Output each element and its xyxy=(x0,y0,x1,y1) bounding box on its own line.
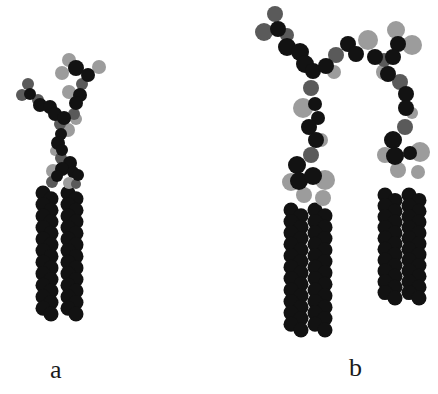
dark-atom xyxy=(72,169,84,181)
dark-atom xyxy=(24,88,36,100)
mid-atom xyxy=(267,6,283,22)
dark-atom xyxy=(403,146,417,160)
mid-atom xyxy=(397,119,413,135)
hydrocarbon-chain xyxy=(36,186,59,322)
dark-atom xyxy=(304,167,322,185)
dark-atom xyxy=(367,49,383,65)
dark-atom xyxy=(386,147,404,165)
hydrocarbon-chain xyxy=(402,188,427,306)
dark-atom xyxy=(288,156,306,174)
molecular-models-figure xyxy=(0,0,438,394)
mid-atom xyxy=(303,80,319,96)
dark-atom xyxy=(380,66,396,82)
light-atom xyxy=(411,165,425,179)
carbon-atom xyxy=(294,323,309,338)
dark-atom xyxy=(81,68,95,82)
light-atom xyxy=(315,190,331,206)
mid-atom xyxy=(255,23,273,41)
carbon-atom xyxy=(44,307,59,322)
dark-atom xyxy=(348,46,364,62)
panel-label-b: b xyxy=(349,355,362,381)
mid-atom xyxy=(22,78,34,90)
dark-atom xyxy=(384,131,402,149)
carbon-atom xyxy=(318,323,333,338)
molecule-model-b xyxy=(255,6,430,338)
dark-atom xyxy=(318,58,334,74)
dark-atom xyxy=(69,96,83,110)
hydrocarbon-chain xyxy=(378,188,403,306)
light-atom xyxy=(55,66,69,80)
carbon-atom xyxy=(412,291,427,306)
dark-atom xyxy=(308,132,324,148)
light-atom xyxy=(358,30,378,50)
molecule-model-a xyxy=(16,53,106,322)
panel-label-a: a xyxy=(50,357,62,383)
hydrocarbon-chain xyxy=(284,203,309,338)
dark-atom xyxy=(57,111,71,125)
dark-atom xyxy=(270,21,286,37)
dark-atom xyxy=(385,49,401,65)
headgroup-atoms xyxy=(255,6,430,206)
hydrocarbon-chain xyxy=(308,203,333,338)
dark-atom xyxy=(398,100,414,116)
dark-atom xyxy=(398,86,414,102)
carbon-atom xyxy=(388,291,403,306)
dark-atom xyxy=(308,97,322,111)
headgroup-atoms xyxy=(16,53,106,189)
hydrocarbon-chain xyxy=(61,186,84,322)
mid-atom xyxy=(303,147,319,163)
carbon-atom xyxy=(69,307,84,322)
dark-atom xyxy=(56,144,68,156)
dark-atom xyxy=(51,170,63,182)
